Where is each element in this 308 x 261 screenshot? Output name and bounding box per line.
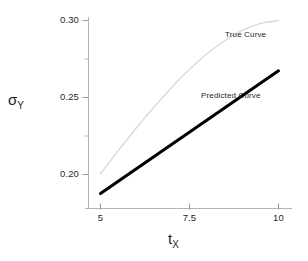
y-axis-title-symbol: σ [8, 91, 17, 108]
x-axis-title-subscript: X [172, 239, 179, 250]
series-line-predicted-curve [101, 71, 279, 194]
y-axis-title: σY [8, 92, 24, 113]
y-tick-label-0.25: 0.25 [46, 92, 79, 102]
y-tick-label-0.30: 0.30 [46, 15, 79, 25]
x-tick-label-5: 5 [86, 213, 115, 223]
chart-canvas [0, 0, 308, 261]
x-tick-label-10: 10 [264, 213, 293, 223]
chart-figure: 0.30 0.25 0.20 5 7.5 10 σY tX True Curve… [0, 0, 308, 261]
y-axis-title-subscript: Y [17, 100, 24, 111]
x-axis-title: tX [168, 231, 179, 252]
x-tick-label-7.5: 7.5 [175, 213, 204, 223]
annotation-predicted-curve: Predicted Curve [201, 91, 261, 100]
annotation-true-curve: True Curve [225, 30, 266, 39]
y-tick-label-0.20: 0.20 [46, 169, 79, 179]
